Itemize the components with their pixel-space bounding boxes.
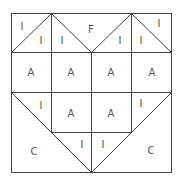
piece-label: I xyxy=(40,35,43,46)
piece-label: I xyxy=(140,98,143,109)
quilt-block-diagram: IIIFIIIAAAAIAAICIIC xyxy=(0,0,183,182)
piece-label: A xyxy=(108,108,115,119)
piece-label: I xyxy=(102,139,105,150)
piece-label: A xyxy=(68,67,75,78)
piece-label: I xyxy=(61,35,64,46)
piece-labels: IIIFIIIAAAAIAAICIIC xyxy=(21,18,161,157)
piece-label: I xyxy=(21,21,24,32)
diagonal-top-1 xyxy=(12,14,52,53)
diagonal-top-4 xyxy=(132,14,172,53)
diagonal-top-3 xyxy=(92,14,132,53)
piece-label: F xyxy=(88,24,94,35)
piece-label: C xyxy=(31,146,38,157)
piece-label: A xyxy=(28,67,35,78)
diagonal-top-2 xyxy=(52,14,92,53)
piece-label: A xyxy=(108,67,115,78)
piece-label: A xyxy=(149,67,156,78)
piece-label: I xyxy=(81,139,84,150)
piece-label: I xyxy=(40,100,43,111)
piece-label: I xyxy=(158,18,161,29)
piece-label: C xyxy=(148,145,155,156)
piece-label: I xyxy=(140,35,143,46)
piece-label: I xyxy=(119,35,122,46)
piece-label: A xyxy=(68,108,75,119)
